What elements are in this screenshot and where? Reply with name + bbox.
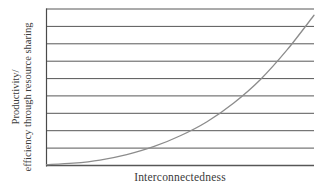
chart-figure: Productivity/ efficiency through resourc… bbox=[0, 0, 329, 195]
gridlines bbox=[46, 9, 314, 166]
x-axis-label: Interconnectedness bbox=[46, 171, 314, 183]
data-series-line bbox=[47, 15, 315, 164]
plot-area bbox=[0, 0, 329, 195]
